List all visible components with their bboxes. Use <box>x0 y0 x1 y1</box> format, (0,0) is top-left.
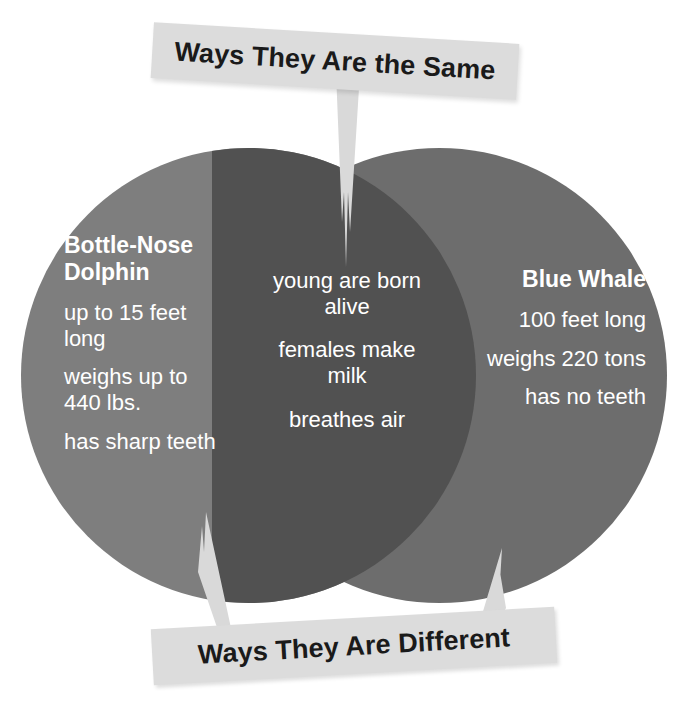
left-heading: Bottle-Nose Dolphin <box>64 232 229 286</box>
right-heading: Blue Whale <box>470 266 646 293</box>
right-item-1: weighs 220 tons <box>470 346 646 372</box>
banner-ways-same: Ways They Are the Same <box>151 22 520 100</box>
center-item-1: females make milk <box>258 337 436 388</box>
pointer-different-left-icon <box>178 512 238 642</box>
left-item-0: up to 15 feet long <box>64 300 229 351</box>
banner-different-label: Ways They Are Different <box>197 622 511 670</box>
left-item-1: weighs up to 440 lbs. <box>64 364 229 415</box>
left-text-block: Bottle-Nose Dolphin up to 15 feet long w… <box>64 232 229 454</box>
center-item-0: young are born alive <box>258 268 436 319</box>
banner-same-label: Ways They Are the Same <box>174 36 497 86</box>
right-item-2: has no teeth <box>470 384 646 410</box>
center-text-block: young are born alive females make milk b… <box>258 268 436 451</box>
center-item-2: breathes air <box>258 407 436 433</box>
venn-diagram: Ways They Are the Same Ways They Are Dif… <box>0 0 691 724</box>
right-item-0: 100 feet long <box>470 307 646 333</box>
right-text-block: Blue Whale 100 feet long weighs 220 tons… <box>470 266 646 410</box>
left-item-2: has sharp teeth <box>64 429 229 455</box>
pointer-same-icon <box>320 72 376 267</box>
